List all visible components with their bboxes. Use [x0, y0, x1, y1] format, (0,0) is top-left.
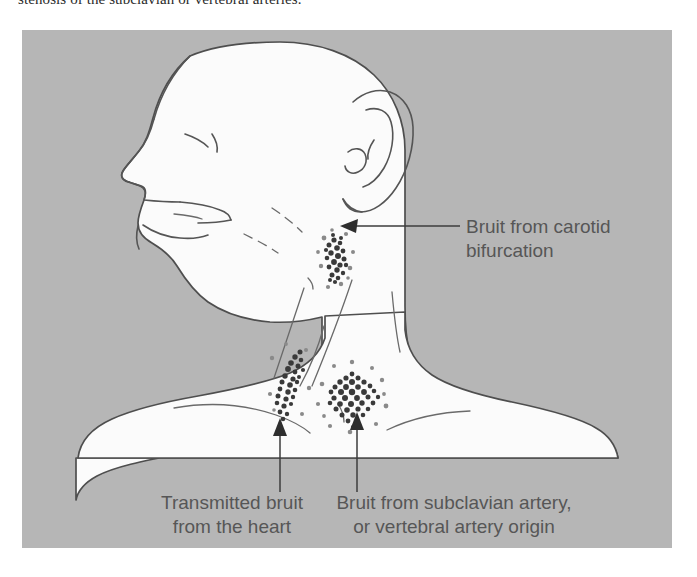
label-carotid-line2: bifurcation [466, 240, 554, 261]
anatomical-illustration: Lateral head and neck illustration showi… [22, 30, 672, 548]
figure-panel: Lateral head and neck illustration showi… [22, 30, 672, 548]
label-subclavian-line2: or vertebral artery origin [353, 516, 555, 537]
label-carotid-line1: Bruit from carotid [466, 216, 611, 237]
label-heart-line2: from the heart [173, 516, 292, 537]
label-subclavian-vertebral: Bruit from subclavian artery, or vertebr… [336, 492, 571, 537]
label-carotid: Bruit from carotid bifurcation [466, 216, 611, 261]
label-transmitted-heart: Transmitted bruit from the heart [161, 492, 304, 537]
page-caption-text: stenosis of the subclavian or vertebral … [18, 0, 678, 9]
label-subclavian-line1: Bruit from subclavian artery, [336, 492, 571, 513]
label-heart-line1: Transmitted bruit [161, 492, 304, 513]
